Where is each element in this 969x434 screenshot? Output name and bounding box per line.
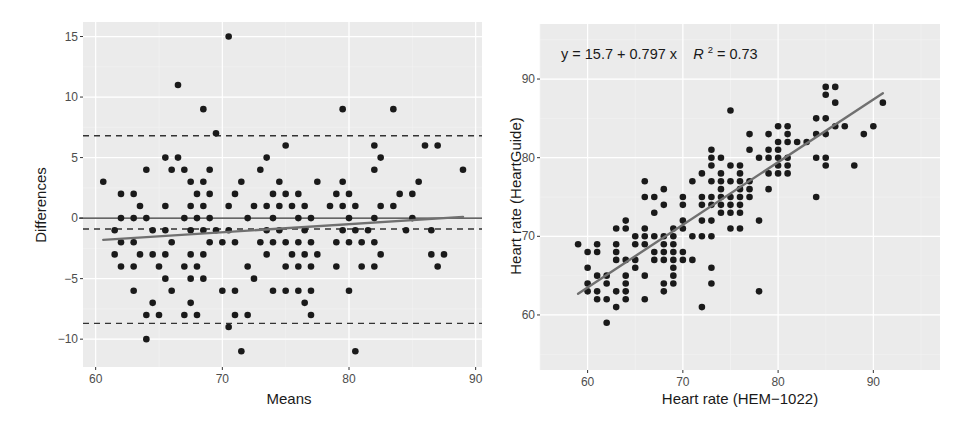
figure: 60708090−10−5051015 Means Differences 60… <box>0 0 969 434</box>
data-point <box>746 147 753 154</box>
data-point <box>813 154 820 161</box>
data-point <box>680 202 687 209</box>
data-point <box>756 217 763 224</box>
data-point <box>708 147 715 154</box>
data-point <box>794 139 801 146</box>
data-point <box>575 241 582 248</box>
data-point <box>670 264 677 271</box>
data-point <box>784 123 791 130</box>
data-point <box>651 257 658 264</box>
data-point <box>718 209 725 216</box>
data-point <box>880 99 887 106</box>
data-point <box>622 217 629 224</box>
data-point <box>784 131 791 138</box>
r-squared-superscript: 2 <box>708 44 713 55</box>
right-x-axis-title: Heart rate (HEM−1022) <box>662 390 818 407</box>
data-point <box>775 147 782 154</box>
data-point <box>727 107 734 114</box>
data-point <box>718 154 725 161</box>
data-point <box>832 84 839 91</box>
data-point <box>708 154 715 161</box>
data-point <box>784 170 791 177</box>
data-point <box>822 84 829 91</box>
data-point <box>613 257 620 264</box>
data-point <box>613 304 620 311</box>
data-point <box>603 320 610 327</box>
data-point <box>756 154 763 161</box>
data-point <box>680 249 687 256</box>
data-point <box>851 162 858 169</box>
data-point <box>622 280 629 287</box>
x-tick-label: 60 <box>581 375 595 389</box>
data-point <box>708 280 715 287</box>
data-point <box>680 257 687 264</box>
data-point <box>737 194 744 201</box>
data-point <box>727 202 734 209</box>
data-point <box>689 233 696 240</box>
data-point <box>746 194 753 201</box>
data-point <box>775 170 782 177</box>
data-point <box>727 209 734 216</box>
data-point <box>661 288 668 295</box>
data-point <box>718 186 725 193</box>
data-point <box>651 249 658 256</box>
r-squared-value: = 0.73 <box>717 46 758 62</box>
y-tick-label: 90 <box>522 72 536 86</box>
data-point <box>737 178 744 185</box>
data-point <box>594 288 601 295</box>
data-point <box>737 170 744 177</box>
data-point <box>622 225 629 232</box>
data-point <box>727 225 734 232</box>
data-point <box>613 288 620 295</box>
data-point <box>632 241 639 248</box>
data-point <box>746 131 753 138</box>
data-point <box>822 162 829 169</box>
data-point <box>641 296 648 303</box>
data-point <box>737 162 744 169</box>
data-point <box>613 225 620 232</box>
right-y-axis-title: Heart rate (HeartGuide) <box>507 117 524 275</box>
data-point <box>822 91 829 98</box>
data-point <box>594 296 601 303</box>
data-point <box>603 296 610 303</box>
data-point <box>699 170 706 177</box>
data-point <box>584 264 591 271</box>
data-point <box>765 147 772 154</box>
x-tick-label: 80 <box>771 375 785 389</box>
data-point <box>813 115 820 122</box>
data-point <box>622 296 629 303</box>
x-tick-label: 70 <box>676 375 690 389</box>
data-point <box>689 178 696 185</box>
data-point <box>651 233 658 240</box>
r-squared-label: R <box>693 46 704 62</box>
data-point <box>699 202 706 209</box>
data-point <box>632 233 639 240</box>
data-point <box>622 272 629 279</box>
data-point <box>594 249 601 256</box>
data-point <box>775 139 782 146</box>
data-point <box>784 139 791 146</box>
equation-text: y = 15.7 + 0.797 x <box>561 46 678 62</box>
data-point <box>661 249 668 256</box>
data-point <box>661 241 668 248</box>
data-point <box>746 186 753 193</box>
data-point <box>727 162 734 169</box>
data-point <box>699 217 706 224</box>
data-point <box>699 304 706 311</box>
data-point <box>622 288 629 295</box>
data-point <box>765 131 772 138</box>
data-point <box>727 178 734 185</box>
data-point <box>680 194 687 201</box>
data-point <box>870 123 877 130</box>
data-point <box>670 272 677 279</box>
data-point <box>784 162 791 169</box>
x-tick-label: 90 <box>867 375 881 389</box>
data-point <box>661 257 668 264</box>
data-point <box>841 123 848 130</box>
data-point <box>641 241 648 248</box>
data-point <box>651 209 658 216</box>
data-point <box>737 225 744 232</box>
data-point <box>632 264 639 271</box>
data-point <box>670 241 677 248</box>
data-point <box>708 178 715 185</box>
